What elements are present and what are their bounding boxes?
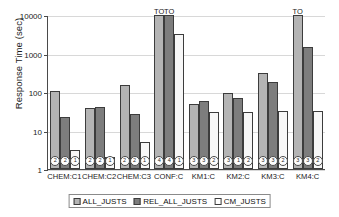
legend-label: REL_ALL_JUSTS xyxy=(143,197,207,206)
bar: 2 xyxy=(50,91,60,169)
bar: 2 xyxy=(313,111,323,169)
bar-groups: 221221221TO4TO41332312332TO332 xyxy=(48,16,325,169)
legend-swatch xyxy=(134,198,141,205)
bar-badge: 3 xyxy=(258,156,268,166)
bar-badge: 3 xyxy=(303,156,313,166)
bar: 3 xyxy=(223,93,233,169)
bar-badge: 2 xyxy=(120,156,130,166)
x-axis-label: KM2:C xyxy=(221,172,256,181)
bar: 3 xyxy=(258,73,268,169)
bar-badge: 4 xyxy=(164,156,174,166)
bar: 1 xyxy=(105,157,115,169)
x-axis-label: CHEM:C2 xyxy=(82,172,117,181)
bar-badge: 1 xyxy=(233,156,243,166)
bar: TO4 xyxy=(164,15,174,169)
bar-group: 312 xyxy=(221,16,256,169)
bar-badge: 2 xyxy=(278,156,288,166)
x-axis-label: KM3:C xyxy=(256,172,291,181)
legend-item: REL_ALL_JUSTS xyxy=(134,197,208,206)
bar-badge: 1 xyxy=(70,156,80,166)
bar-group: 221 xyxy=(83,16,118,169)
bar-badge: 2 xyxy=(60,156,70,166)
y-axis-tick-label: 10000 xyxy=(20,12,42,21)
legend-item: ALL_JUSTS xyxy=(73,197,127,206)
bar: 2 xyxy=(95,107,105,169)
bar-badge: 2 xyxy=(85,156,95,166)
legend-label: CM_JUSTS xyxy=(224,197,266,206)
bar-badge: 2 xyxy=(243,156,253,166)
bar-badge: 3 xyxy=(293,156,303,166)
y-axis-tick-label: 1000 xyxy=(24,50,42,59)
bar-badge: 3 xyxy=(268,156,278,166)
bar-badge: 2 xyxy=(209,156,219,166)
x-axis-label: CHEM:C3 xyxy=(117,172,152,181)
bar: 2 xyxy=(209,112,219,169)
bar-group: TO332 xyxy=(290,16,325,169)
x-axis-label: KM4:C xyxy=(290,172,325,181)
bar-chart: Response Time (sec) 110100100010000 2212… xyxy=(0,0,339,217)
x-axis-label: CONF:C xyxy=(151,172,186,181)
gridline xyxy=(48,170,325,171)
bar: TO4 xyxy=(154,15,164,169)
bar: 2 xyxy=(120,85,130,169)
bar: 3 xyxy=(189,104,199,169)
timeout-annotation: TO xyxy=(293,8,303,16)
bar: 2 xyxy=(85,108,95,169)
y-axis-tick-label: 1 xyxy=(38,166,42,175)
bar: 2 xyxy=(278,111,288,169)
x-axis-label: CHEM:C1 xyxy=(47,172,82,181)
bar-badge: 3 xyxy=(223,156,233,166)
bar: TO3 xyxy=(293,15,303,169)
bar: 3 xyxy=(268,82,278,169)
bar-badge: 1 xyxy=(105,156,115,166)
bar-group: 332 xyxy=(187,16,222,169)
timeout-annotation: TO xyxy=(164,8,174,16)
x-axis-labels: CHEM:C1CHEM:C2CHEM:C3CONF:CKM1:CKM2:CKM3… xyxy=(47,172,325,181)
bar: 1 xyxy=(70,150,80,169)
y-axis-tick-label: 10 xyxy=(33,127,42,136)
bar: 2 xyxy=(243,112,253,169)
timeout-annotation: TO xyxy=(154,8,164,16)
bar-badge: 2 xyxy=(130,156,140,166)
bar-badge: 1 xyxy=(140,156,150,166)
bar: 2 xyxy=(130,114,140,169)
bar-badge: 4 xyxy=(154,156,164,166)
legend-label: ALL_JUSTS xyxy=(83,197,127,206)
bar-group: 332 xyxy=(256,16,291,169)
bar: 1 xyxy=(174,34,184,169)
bar-badge: 3 xyxy=(199,156,209,166)
legend-swatch xyxy=(73,198,80,205)
bar: 3 xyxy=(199,101,209,169)
bar-badge: 2 xyxy=(313,156,323,166)
bar-group: 221 xyxy=(117,16,152,169)
bar: 3 xyxy=(303,47,313,169)
bar-badge: 3 xyxy=(189,156,199,166)
plot-area: 110100100010000 221221221TO4TO4133231233… xyxy=(47,16,325,170)
legend-item: CM_JUSTS xyxy=(214,197,266,206)
bar: 2 xyxy=(60,117,70,169)
y-axis-tick xyxy=(44,170,48,171)
y-axis-tick-label: 100 xyxy=(29,89,42,98)
bar-badge: 1 xyxy=(174,156,184,166)
x-axis-label: KM1:C xyxy=(186,172,221,181)
bar-group: TO4TO41 xyxy=(152,16,187,169)
bar: 1 xyxy=(233,98,243,170)
chart-legend: ALL_JUSTSREL_ALL_JUSTSCM_JUSTS xyxy=(68,194,271,208)
bar-group: 221 xyxy=(48,16,83,169)
bar-badge: 2 xyxy=(95,156,105,166)
legend-swatch xyxy=(214,198,221,205)
bar-badge: 2 xyxy=(50,156,60,166)
bar: 1 xyxy=(140,142,150,169)
